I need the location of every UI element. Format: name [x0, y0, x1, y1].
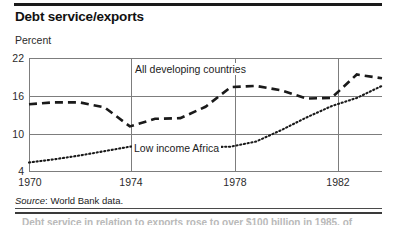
clipped-body-text: Debt service in relation to exports rose…	[22, 217, 382, 225]
line-all-developing-countries	[29, 74, 382, 126]
x-tick-label-1974: 1974	[119, 176, 142, 188]
series-label-all-developing-countries: All developing countries	[133, 63, 248, 75]
source-text: : World Bank data.	[45, 195, 123, 206]
y-axis-unit-label: Percent	[15, 34, 51, 46]
series-lines	[29, 58, 382, 172]
source-note: Source: World Bank data.	[15, 195, 123, 206]
source-rule	[15, 208, 382, 209]
plot-area: 22 16 10 4 1970 1974 1978 1982 All devel…	[29, 58, 382, 172]
x-tick-label-1982: 1982	[326, 176, 349, 188]
bottom-rule	[15, 212, 382, 214]
page-title: Debt service/exports	[15, 9, 144, 24]
chart-page: Debt service/exports Percent 22 16 10 4 …	[0, 0, 396, 225]
x-tick-label-1978: 1978	[223, 176, 246, 188]
x-tick-label-1970: 1970	[18, 176, 41, 188]
y-tick-label-16: 16	[12, 90, 24, 102]
header-rule	[14, 3, 382, 6]
source-prefix: Source	[15, 195, 45, 206]
series-label-low-income-africa: Low income Africa	[132, 142, 221, 154]
y-tick-label-22: 22	[12, 52, 24, 64]
y-tick-label-10: 10	[12, 128, 24, 140]
